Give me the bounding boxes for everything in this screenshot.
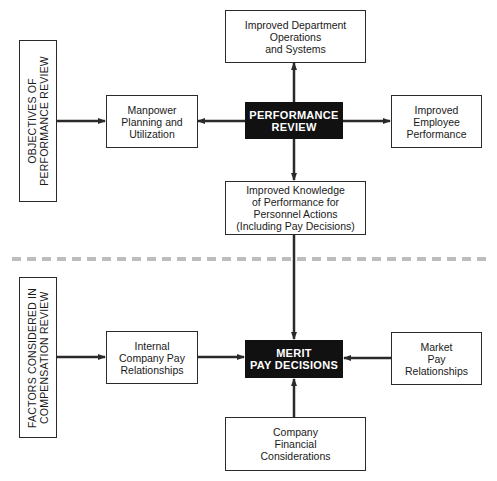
- merit-pay-decisions-label: MERIT PAY DECISIONS: [250, 347, 338, 371]
- connector-layer: [0, 0, 497, 481]
- employee-performance-label: Improved Employee Performance: [406, 104, 466, 140]
- objectives-side-label-box: OBJECTIVES OF PERFORMANCE REVIEW: [19, 40, 57, 202]
- financial-considerations-label: Company Financial Considerations: [260, 426, 330, 462]
- knowledge-of-performance-label: Improved Knowledge of Performance for Pe…: [236, 184, 354, 232]
- factors-side-label-box: FACTORS CONSIDERED IN COMPENSATION REVIE…: [19, 277, 57, 438]
- manpower-planning-label: Manpower Planning and Utilization: [121, 104, 182, 140]
- internal-pay-label: Internal Company Pay Relationships: [119, 340, 185, 376]
- market-pay-box: Market Pay Relationships: [391, 332, 482, 385]
- employee-performance-box: Improved Employee Performance: [391, 95, 482, 148]
- factors-side-label: FACTORS CONSIDERED IN COMPENSATION REVIE…: [26, 288, 50, 428]
- knowledge-of-performance-box: Improved Knowledge of Performance for Pe…: [225, 181, 366, 235]
- performance-review-box: PERFORMANCE REVIEW: [245, 102, 343, 139]
- department-operations-box: Improved Department Operations and Syste…: [225, 10, 366, 63]
- financial-considerations-box: Company Financial Considerations: [225, 417, 366, 471]
- objectives-side-label: OBJECTIVES OF PERFORMANCE REVIEW: [26, 56, 50, 186]
- manpower-planning-box: Manpower Planning and Utilization: [106, 95, 198, 148]
- market-pay-label: Market Pay Relationships: [405, 341, 468, 377]
- internal-pay-box: Internal Company Pay Relationships: [106, 331, 198, 384]
- performance-review-label: PERFORMANCE REVIEW: [249, 109, 338, 133]
- department-operations-label: Improved Department Operations and Syste…: [245, 19, 347, 55]
- merit-pay-decisions-box: MERIT PAY DECISIONS: [245, 340, 343, 378]
